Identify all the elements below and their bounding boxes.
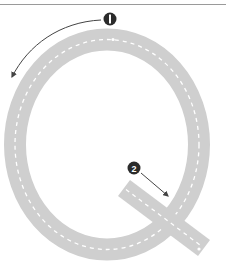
marker-2: 2 <box>128 162 141 175</box>
q-road-diagram: 2 <box>0 0 226 269</box>
marker-2-label: 2 <box>131 164 136 174</box>
marker-1 <box>104 13 117 26</box>
end-dot <box>197 247 200 250</box>
start-dot <box>111 38 114 41</box>
